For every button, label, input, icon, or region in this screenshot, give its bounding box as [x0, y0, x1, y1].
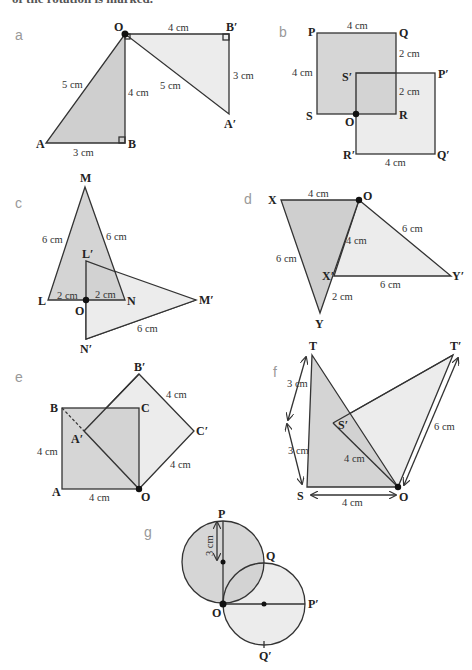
dim-label: 4 cm [37, 446, 58, 457]
panel-label-b: b [279, 24, 287, 40]
point-label-s: S [297, 489, 304, 503]
point-label-o: O [212, 606, 221, 620]
dim-label: 3 cm [287, 378, 308, 389]
panel-d: d X O X′ Y′ Y 4 cm 6 cm 4 cm 6 cm 6 cm 2… [244, 188, 464, 331]
point-label-r-prime: R′ [343, 148, 355, 162]
dim-label: 4 cm [292, 67, 313, 78]
point-label-y: Y [315, 317, 324, 331]
dim-label: 3 cm [288, 445, 309, 456]
point-label-o: O [363, 189, 372, 203]
dim-label: 4 cm [128, 87, 149, 98]
point-label-m: M [80, 171, 91, 185]
dim-label: 6 cm [137, 323, 158, 334]
dim-label: 4 cm [308, 188, 329, 199]
panel-label-f: f [273, 364, 277, 380]
point-label-c: C [141, 401, 150, 415]
point-label-b-prime: B′ [226, 20, 237, 34]
point-label-q: Q [266, 549, 275, 563]
point-label-r: R [399, 108, 408, 122]
panel-a: a O B′ A B A′ 4 cm 5 cm 4 cm 3 cm 5 cm 3… [15, 20, 254, 158]
panel-g: g P Q O P′ Q′ 3 cm [144, 507, 319, 663]
dim-label: 6 cm [276, 253, 297, 264]
point-label-q-prime: Q′ [259, 649, 272, 663]
panel-f: f T T′ S′ S O 3 cm 3 cm 4 cm 4 cm 6 cm [273, 339, 461, 508]
point-label-b-prime: B′ [134, 360, 145, 374]
point-label-y-prime: Y′ [452, 269, 464, 283]
dim-label: 5 cm [160, 80, 181, 91]
panel-c: c M L′ L O N M′ N′ 6 cm 6 cm 2 cm 2 cm 6… [15, 171, 214, 356]
point-label-o: O [345, 115, 354, 129]
panel-label-d: d [244, 191, 252, 207]
point-label-n: N [127, 294, 136, 308]
panel-e: e B′ B C A′ C′ A O 4 cm 4 cm 4 cm 4 cm [15, 360, 208, 504]
point-label-a: A [52, 485, 61, 499]
dim-label: 4 cm [346, 235, 367, 246]
point-label-t: T [309, 339, 317, 353]
point-label-s-prime: S′ [342, 70, 352, 84]
dim-label: 2 cm [95, 289, 116, 300]
dim-label: 2 cm [399, 48, 420, 59]
dim-label: 3 cm [204, 535, 215, 556]
dim-label: 6 cm [434, 421, 455, 432]
point-label-l: L [38, 294, 46, 308]
dim-label: 2 cm [332, 291, 353, 302]
point-label-n-prime: N′ [80, 342, 92, 356]
panel-label-a: a [15, 27, 23, 43]
point-label-q: Q [399, 26, 408, 40]
dim-label: 4 cm [344, 453, 365, 464]
point-label-x-prime: X′ [322, 269, 334, 283]
point-label-m-prime: M′ [199, 293, 214, 307]
panel-label-c: c [15, 195, 22, 211]
dim-label: 6 cm [380, 279, 401, 290]
dim-label: 2 cm [399, 86, 420, 97]
point-label-o: O [75, 304, 84, 318]
centre-of-rotation [83, 297, 89, 303]
point-label-a-prime: A′ [224, 117, 236, 131]
dim-label: 4 cm [168, 22, 189, 33]
point-label-p: P [308, 25, 315, 39]
circle-centre [221, 560, 226, 565]
dim-label: 6 cm [42, 234, 63, 245]
dim-label: 4 cm [166, 389, 187, 400]
dim-label: 4 cm [170, 459, 191, 470]
image-triangle-a [125, 34, 229, 114]
dim-label: 2 cm [57, 290, 78, 301]
circle-centre [262, 602, 267, 607]
dim-label: 6 cm [106, 231, 127, 242]
point-label-p: P [218, 507, 225, 521]
point-label-o: O [141, 490, 150, 504]
point-label-q-prime: Q′ [437, 148, 450, 162]
dim-label: 3 cm [233, 70, 254, 81]
centre-of-rotation [356, 197, 362, 203]
point-label-l-prime: L′ [82, 247, 93, 261]
point-label-s-prime: S′ [338, 418, 348, 432]
dim-label: 4 cm [342, 497, 363, 508]
panel-label-e: e [15, 369, 23, 385]
point-label-o: O [399, 490, 408, 504]
point-label-t-prime: T′ [450, 339, 461, 353]
point-label-s: S [306, 109, 313, 123]
dim-label: 4 cm [385, 157, 406, 168]
dim-label: 4 cm [347, 20, 368, 31]
point-label-b: B [128, 137, 136, 151]
dim-label: 6 cm [402, 223, 423, 234]
point-label-p-prime: P′ [308, 597, 319, 611]
dim-label: 5 cm [62, 79, 83, 90]
object-triangle-a [46, 34, 125, 143]
dim-label: 4 cm [89, 492, 110, 503]
point-label-a: A [36, 137, 45, 151]
dim-label: 3 cm [73, 147, 94, 158]
point-label-b: B [50, 401, 58, 415]
rotation-figures: a O B′ A B A′ 4 cm 5 cm 4 cm 3 cm 5 cm 3… [0, 0, 472, 670]
point-label-p-prime: P′ [438, 67, 449, 81]
point-label-x: X [268, 193, 277, 207]
point-label-a-prime: A′ [71, 432, 83, 446]
point-label-c-prime: C′ [196, 424, 208, 438]
panel-b: b P Q S′ P′ S O R R′ Q′ 4 cm 4 cm 2 cm 2… [279, 20, 450, 168]
panel-label-g: g [144, 524, 152, 540]
point-label-o: O [114, 20, 123, 34]
